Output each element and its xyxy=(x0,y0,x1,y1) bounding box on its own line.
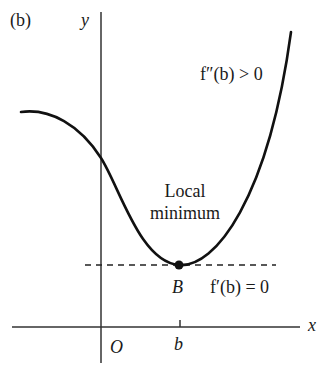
x-axis-label: x xyxy=(308,315,316,336)
second-derivative-annotation: f″(b) > 0 xyxy=(200,64,263,85)
y-axis-label: y xyxy=(81,10,89,31)
local-minimum-caption: Local minimum xyxy=(130,180,240,224)
point-b-marker xyxy=(175,261,184,270)
local-minimum-line1: Local xyxy=(130,180,240,202)
b-tick-label: b xyxy=(174,334,183,355)
local-minimum-diagram: (b) y x O b B f′(b) = 0 f″(b) > 0 Local … xyxy=(0,0,328,377)
local-minimum-line2: minimum xyxy=(130,202,240,224)
first-derivative-annotation: f′(b) = 0 xyxy=(210,277,269,298)
panel-label: (b) xyxy=(10,10,31,31)
origin-label: O xyxy=(110,337,123,358)
point-b-label: B xyxy=(172,277,183,298)
